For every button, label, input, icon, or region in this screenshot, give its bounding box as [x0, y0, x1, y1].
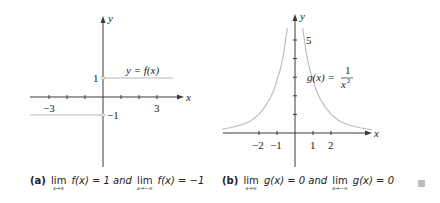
svg-text:1: 1 [345, 64, 351, 76]
tick-label-3: 3 [154, 102, 160, 114]
caption-a-expr1: f(x) = 1 and [72, 175, 132, 186]
limit-expression: lim x→−∞ [332, 175, 347, 186]
caption-b-expr2: g(x) = 0 [353, 175, 394, 186]
figure-canvas: y x −3 3 1 −1 y = f(x) y x −2 −1 [0, 0, 440, 203]
limit-expression: lim x→−∞ [137, 175, 152, 186]
x-axis-arrow-icon [177, 95, 184, 100]
open-point-icon [102, 77, 105, 80]
panel-a-plot: y x −3 3 1 −1 y = f(x) [30, 12, 191, 167]
tick-label-neg2: −2 [252, 139, 264, 151]
tick-label-5: 5 [306, 34, 312, 46]
open-point-icon [102, 114, 105, 117]
svg-text:2: 2 [347, 77, 351, 85]
curve-label-f: y = f(x) [125, 64, 159, 77]
y-axis-arrow-icon [293, 14, 298, 21]
tick-label-neg1-b: −1 [270, 139, 282, 151]
caption-a-label: (a) [30, 175, 46, 186]
y-axis-label-a: y [107, 12, 113, 24]
tick-label-1: 1 [93, 72, 99, 84]
tick-label-1-b: 1 [310, 139, 316, 151]
tick-label-2-b: 2 [328, 139, 334, 151]
caption-b: (b) lim x→∞ g(x) = 0 and lim x→−∞ g(x) =… [222, 175, 394, 186]
end-of-proof-square-icon [418, 180, 425, 187]
y-axis-label-b: y [299, 10, 305, 22]
caption-b-expr1: g(x) = 0 and [264, 175, 327, 186]
tick-label-neg3: −3 [43, 102, 55, 114]
x-axis-label-a: x [185, 91, 191, 103]
panel-b-plot: y x −2 −1 1 2 5 g(x) = 1 x 2 [222, 10, 379, 167]
x-axis-label-b: x [373, 127, 379, 139]
svg-text:x: x [340, 78, 346, 90]
curve-label-g: g(x) = 1 x 2 [307, 64, 353, 90]
limit-expression: lim x→∞ [51, 175, 66, 186]
tick-label-neg1: −1 [107, 109, 119, 121]
g-curve-left [222, 28, 287, 129]
caption-a: (a) lim x→∞ f(x) = 1 and lim x→−∞ f(x) =… [30, 175, 204, 186]
svg-text:g(x) =: g(x) = [307, 71, 335, 84]
caption-a-expr2: f(x) = −1 [158, 175, 205, 186]
limit-expression: lim x→∞ [244, 175, 259, 186]
caption-b-label: (b) [222, 175, 238, 186]
y-axis-arrow-icon [101, 16, 106, 23]
x-axis-arrow-icon [365, 131, 372, 136]
